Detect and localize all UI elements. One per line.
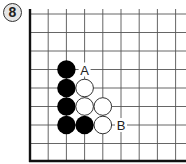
white-stone <box>94 98 112 116</box>
point-label-a: A <box>80 63 89 78</box>
black-stone <box>57 116 75 134</box>
white-stone <box>76 98 94 116</box>
board-grid <box>29 9 186 162</box>
black-stone <box>57 97 75 115</box>
black-stone <box>57 60 75 78</box>
point-label-b: B <box>117 118 126 133</box>
black-stone <box>75 116 93 134</box>
white-stone <box>76 79 94 97</box>
go-board: AB <box>0 0 186 164</box>
black-stone <box>57 79 75 97</box>
white-stone <box>94 116 112 134</box>
